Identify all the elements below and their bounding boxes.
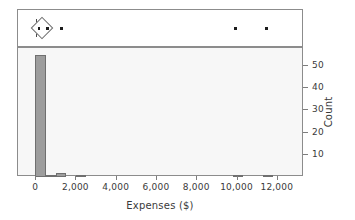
x-axis-tick-mark (277, 176, 278, 180)
y-axis-title: Count (323, 97, 334, 128)
x-axis-tick-mark (237, 176, 238, 180)
y-axis-tick-mark (303, 154, 308, 155)
y-axis-tick-label: 10 (312, 149, 324, 159)
boxplot-panel (17, 9, 303, 47)
histogram-bar (76, 175, 86, 177)
histogram-bar (233, 175, 243, 177)
x-axis-tick-label: 6,000 (143, 182, 170, 192)
histogram-bar (46, 175, 56, 177)
boxplot-outlier-point (265, 27, 268, 30)
y-axis-tick-mark (303, 65, 308, 66)
x-axis-tick-label: 10,000 (220, 182, 253, 192)
x-axis-tick-mark (75, 176, 76, 180)
x-axis-tick-mark (116, 176, 117, 180)
x-axis-tick-label: 2,000 (62, 182, 89, 192)
x-axis-tick-label: 0 (32, 182, 38, 192)
histogram-bar (56, 173, 66, 177)
x-axis-tick-mark (35, 176, 36, 180)
x-axis-title: Expenses ($) (0, 200, 320, 211)
boxplot-quartile-dot (46, 27, 49, 30)
boxplot-quartile-dot (38, 27, 41, 30)
y-axis-tick-label: 50 (312, 60, 324, 70)
y-axis-tick-label: 30 (312, 104, 324, 114)
y-axis-tick-mark (303, 132, 308, 133)
histogram-bar (35, 55, 47, 177)
x-axis-tick-label: 12,000 (260, 182, 293, 192)
y-axis-tick-label: 20 (312, 127, 324, 137)
x-axis-tick-mark (196, 176, 197, 180)
y-axis-tick-mark (303, 87, 308, 88)
y-axis-tick-mark (303, 109, 308, 110)
histogram-figure: Expenses ($) Count 02,0004,0006,0008,000… (0, 0, 355, 220)
x-axis-tick-label: 8,000 (183, 182, 210, 192)
y-axis-tick-label: 40 (312, 82, 324, 92)
histogram-bars-layer (18, 48, 302, 175)
boxplot-layer (18, 10, 302, 46)
x-axis-tick-label: 4,000 (102, 182, 129, 192)
histogram-bar (263, 175, 273, 177)
histogram-panel (17, 47, 303, 176)
boxplot-outlier-point (60, 27, 63, 30)
boxplot-mean-diamond (31, 17, 54, 40)
x-axis-tick-mark (156, 176, 157, 180)
boxplot-outlier-point (234, 27, 237, 30)
